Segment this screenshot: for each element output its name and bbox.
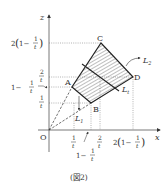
svg-text:1: 1 (30, 79, 34, 86)
svg-text:t: t (40, 76, 43, 83)
svg-text:2: 2 (98, 134, 102, 141)
z-axis-label: z (39, 13, 45, 22)
label-L1: L1 (74, 114, 84, 124)
svg-text:1: 1 (136, 134, 140, 141)
figure: z x O C A B D L1 L2 Lt 2 ( 1− 1 t ) 2 t … (0, 0, 165, 191)
L2-arrow (126, 58, 140, 66)
svg-text:t: t (136, 142, 139, 149)
svg-text:1: 1 (40, 94, 44, 101)
svg-text:1−: 1− (76, 152, 86, 160)
x-tick-1-minus-1-over-t: 1− 1 t (76, 147, 95, 162)
svg-text:1: 1 (72, 134, 76, 141)
x-tick-1-over-t: 1 t (71, 134, 76, 149)
svg-text:1−: 1− (11, 84, 21, 92)
svg-text:t: t (72, 142, 75, 149)
svg-text:): ) (141, 136, 145, 149)
shaded-region (72, 43, 133, 103)
svg-text:t: t (40, 102, 43, 109)
svg-text:t: t (91, 155, 94, 162)
svg-text:1−: 1− (19, 40, 29, 48)
z-tick-2-over-t: 2 t (39, 68, 44, 83)
point-C: C (97, 34, 103, 43)
x-tick-arrow (84, 132, 88, 142)
svg-text:1−: 1− (121, 139, 131, 147)
x-tick-2-over-t: 2 t (97, 134, 102, 149)
origin-label: O (40, 133, 47, 142)
figure-caption: (図2) (70, 173, 88, 182)
svg-text:1: 1 (34, 35, 38, 42)
point-D: D (134, 73, 140, 82)
z-tick-1-over-t: 1 t (39, 94, 44, 109)
z-tick-1-minus-1-over-t: 1− 1 t (11, 79, 34, 94)
z-tick-2-one-minus-1-over-t: 2 ( 1− 1 t ) (11, 35, 43, 50)
label-L2: L2 (142, 56, 152, 66)
svg-text:2: 2 (40, 68, 44, 75)
svg-text:): ) (39, 37, 43, 50)
x-axis-label: x (155, 133, 160, 142)
x-tick-2-one-minus-1-over-t: 2 ( 1− 1 t ) (113, 134, 145, 149)
coordinate-diagram: z x O C A B D L1 L2 Lt 2 ( 1− 1 t ) 2 t … (0, 0, 165, 191)
svg-text:t: t (30, 87, 33, 94)
label-Lt: Lt (121, 85, 130, 95)
point-B: B (93, 105, 99, 114)
point-A: A (64, 78, 71, 87)
z-tick-arrow (38, 86, 47, 88)
svg-text:t: t (34, 43, 37, 50)
svg-text:t: t (98, 142, 101, 149)
svg-text:1: 1 (91, 147, 95, 154)
